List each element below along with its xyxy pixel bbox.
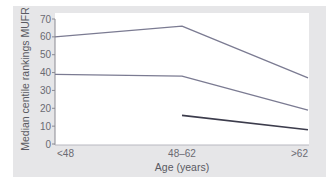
y-tick-label: 30: [40, 85, 52, 96]
y-tick-label: 60: [40, 31, 52, 42]
y-tick-label: 0: [45, 139, 51, 150]
y-tick-label: 40: [40, 67, 52, 78]
x-tick-label: 48–62: [168, 148, 196, 159]
y-tick-label: 10: [40, 121, 52, 132]
y-axis-title: Median centile rankings MUFR: [19, 7, 31, 151]
x-tick-label: >62: [291, 148, 308, 159]
x-axis-title: Age (years): [155, 161, 209, 173]
y-tick-label: 20: [40, 103, 52, 114]
y-tick-label: 50: [40, 49, 52, 60]
y-tick-label: 70: [40, 14, 52, 25]
x-tick-label: <48: [57, 148, 74, 159]
line-chart: 010203040506070<4848–62>62Age (years)Med…: [0, 0, 330, 185]
